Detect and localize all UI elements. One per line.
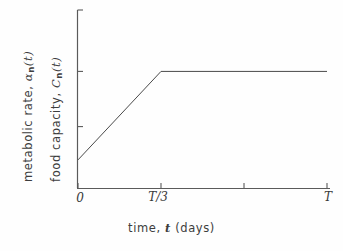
x-tick-label-t-over-3: T/3 (148, 190, 168, 204)
x-axis-label-prefix: time, (128, 221, 165, 235)
plot-area (0, 0, 343, 251)
x-tick-label-0: 0 (76, 191, 84, 205)
chart-figure: metabolic rate, αn(t) food capacity, Cn(… (0, 0, 343, 251)
x-axis-label: time, t (days) (0, 221, 343, 235)
axes-group (77, 10, 330, 189)
x-axis-label-suffix: (days) (171, 221, 215, 235)
x-axis-ticks (78, 183, 327, 188)
y-axis-ticks (78, 10, 84, 127)
data-line (78, 71, 327, 159)
x-tick-label-t: T (324, 190, 332, 204)
data-series-group (78, 71, 327, 159)
